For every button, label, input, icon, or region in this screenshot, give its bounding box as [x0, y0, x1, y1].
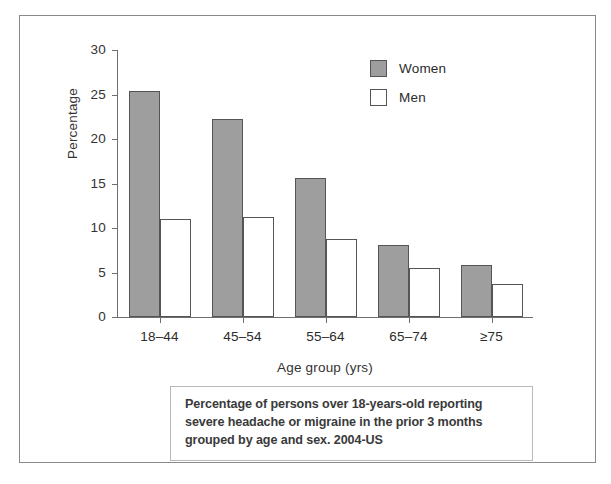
- bar-women-0: [129, 91, 160, 317]
- bar-men-4: [492, 284, 523, 317]
- figure-frame: Percentage 051015202530 18–4445–5455–646…: [19, 15, 596, 463]
- y-axis-tick: 10: [112, 228, 118, 229]
- x-axis-tick-label: ≥75: [480, 329, 503, 344]
- x-axis-tick-label: 45–54: [223, 329, 262, 344]
- x-axis-tick: [492, 317, 493, 323]
- bar-women-3: [378, 245, 409, 317]
- x-axis-tick: [326, 317, 327, 323]
- legend-swatch-men-icon: [370, 89, 387, 106]
- chart-legend: Women Men: [370, 60, 446, 118]
- bar-men-1: [243, 217, 274, 317]
- plot-area: 051015202530 18–4445–5455–6465–74≥75: [117, 50, 533, 318]
- x-axis-tick: [409, 317, 410, 323]
- y-axis-tick-label: 15: [91, 176, 106, 191]
- bar-women-4: [461, 265, 492, 317]
- x-axis-title: Age group (yrs): [117, 360, 533, 375]
- legend-label-women: Women: [399, 61, 446, 76]
- x-axis-tick: [243, 317, 244, 323]
- legend-label-men: Men: [399, 90, 426, 105]
- caption-line: grouped by age and sex. 2004-US: [185, 432, 518, 450]
- x-axis-tick-label: 65–74: [389, 329, 428, 344]
- x-axis-tick-label: 55–64: [306, 329, 345, 344]
- y-axis-tick: 30: [112, 50, 118, 51]
- y-axis-title: Percentage: [65, 64, 80, 184]
- y-axis-tick-label: 20: [91, 131, 106, 146]
- x-axis-tick-label: 18–44: [140, 329, 179, 344]
- bar-women-1: [212, 119, 243, 317]
- y-axis-tick-label: 5: [98, 265, 106, 280]
- legend-swatch-women-icon: [370, 60, 387, 77]
- y-axis-tick-label: 30: [91, 42, 106, 57]
- y-axis-tick: 0: [112, 317, 118, 318]
- bar-women-2: [295, 178, 326, 317]
- legend-item-women: Women: [370, 60, 446, 77]
- y-axis-tick: 20: [112, 139, 118, 140]
- bar-men-0: [160, 219, 191, 317]
- y-axis-tick-label: 0: [98, 309, 106, 324]
- caption-box: Percentage of persons over 18-years-old …: [170, 386, 533, 461]
- bar-men-2: [326, 239, 357, 317]
- y-axis-tick: 25: [112, 95, 118, 96]
- y-axis-tick: 5: [112, 273, 118, 274]
- caption-line: Percentage of persons over 18-years-old …: [185, 396, 518, 414]
- y-axis-tick: 15: [112, 184, 118, 185]
- y-axis-tick-label: 10: [91, 220, 106, 235]
- legend-item-men: Men: [370, 89, 446, 106]
- caption-line: severe headache or migraine in the prior…: [185, 414, 518, 432]
- y-axis-tick-label: 25: [91, 87, 106, 102]
- bar-men-3: [409, 268, 440, 317]
- x-axis-tick: [160, 317, 161, 323]
